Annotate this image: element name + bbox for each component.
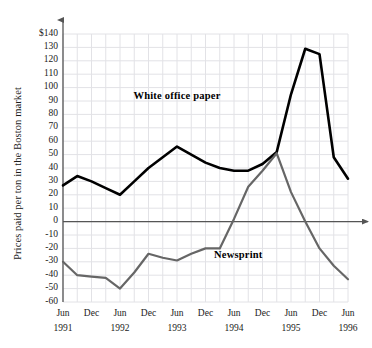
y-axis-tick-label: 90 bbox=[18, 95, 58, 105]
y-axis-tick-label: 40 bbox=[18, 162, 58, 172]
y-axis-tick-label: 30 bbox=[18, 175, 58, 185]
y-axis-tick-label: 50 bbox=[18, 148, 58, 158]
y-axis-tick-label: 0 bbox=[18, 215, 58, 225]
y-axis-tick-label: -40 bbox=[18, 269, 58, 279]
x-axis-tick-year: 1991 bbox=[43, 323, 83, 333]
y-axis-tick-label: 20 bbox=[18, 188, 58, 198]
y-axis-tick-label: -60 bbox=[18, 296, 58, 306]
x-axis-tick-year: 1993 bbox=[157, 323, 197, 333]
y-axis-tick-label: $140 bbox=[18, 28, 58, 38]
series-label-white-office-paper: White office paper bbox=[134, 90, 221, 101]
y-axis-tick-label: 110 bbox=[18, 68, 58, 78]
y-axis-tick-label: 80 bbox=[18, 108, 58, 118]
y-axis-tick-label: -10 bbox=[18, 229, 58, 239]
y-axis-tick-label: 130 bbox=[18, 41, 58, 51]
x-axis-tick-year: 1995 bbox=[271, 323, 311, 333]
y-axis-tick-label: 10 bbox=[18, 202, 58, 212]
series-label-newsprint: Newsprint bbox=[214, 249, 262, 260]
y-axis-tick-label: 70 bbox=[18, 121, 58, 131]
x-axis-tick-year: 1994 bbox=[214, 323, 254, 333]
y-axis-tick-label: -20 bbox=[18, 242, 58, 252]
x-axis-tick-year: 1996 bbox=[328, 323, 368, 333]
y-axis-tick-label: 60 bbox=[18, 135, 58, 145]
x-axis-tick-month: Jun bbox=[328, 308, 368, 318]
chart-gridlines bbox=[63, 34, 348, 302]
y-axis-tick-label: -30 bbox=[18, 255, 58, 265]
y-axis-tick-label: 120 bbox=[18, 54, 58, 64]
chart-container: Prices paid per ton in the Boston market… bbox=[0, 0, 372, 348]
y-axis-tick-label: 100 bbox=[18, 81, 58, 91]
y-axis-tick-label: -50 bbox=[18, 282, 58, 292]
x-axis-tick-year: 1992 bbox=[100, 323, 140, 333]
